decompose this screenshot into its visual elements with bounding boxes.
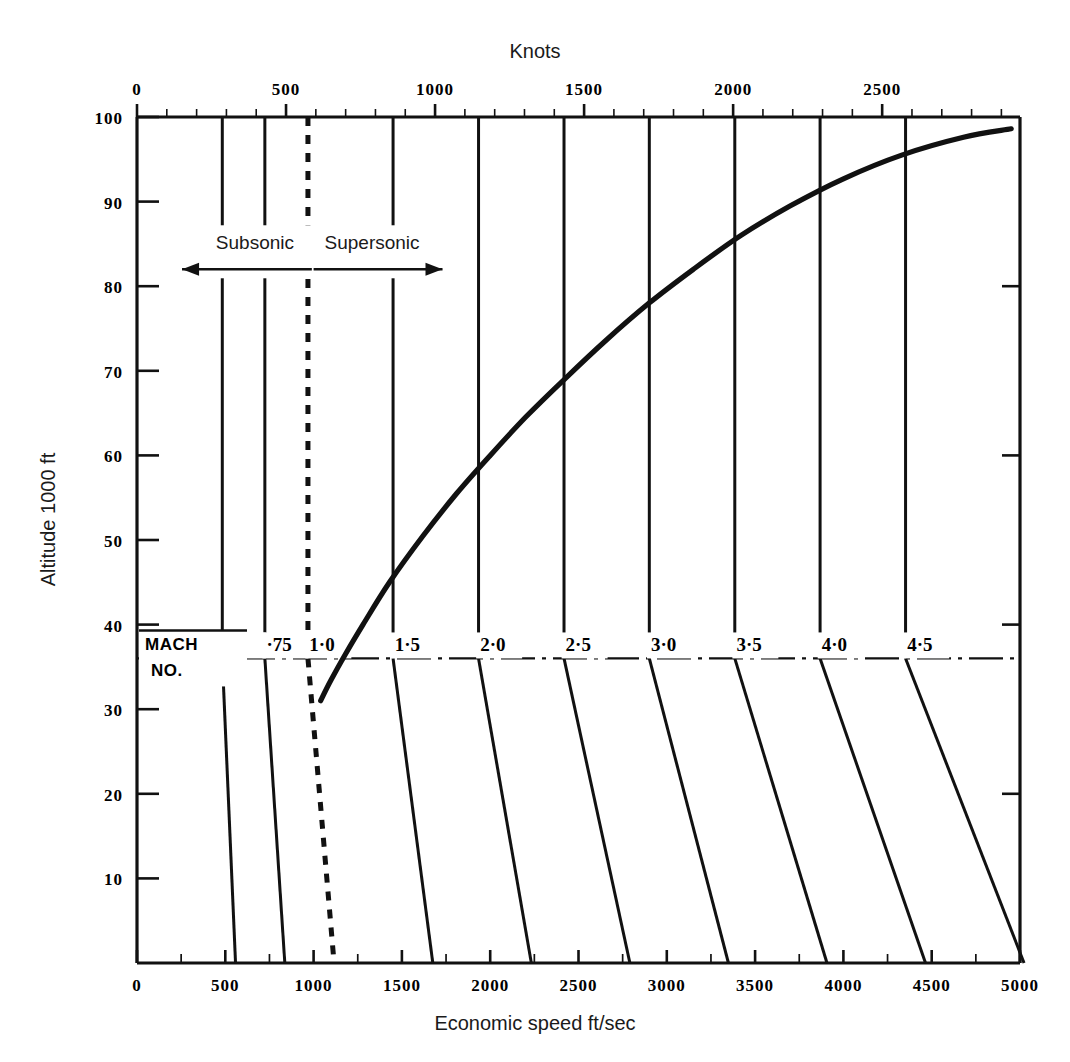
left-axis-tick-label: 60 [104, 447, 123, 466]
mach-label-2: 2·0 [480, 634, 505, 655]
mach-label-3p5: 3·5 [736, 634, 761, 655]
subsonic-region-label: Subsonic [216, 232, 294, 253]
mach-line-0p75-lower [265, 658, 285, 963]
mach-caption-line1: MACH [145, 635, 198, 654]
mach-line-2-lower [479, 658, 532, 963]
bottom-axis-tick-label: 4000 [824, 976, 862, 995]
left-axis-tick-label: 50 [104, 532, 123, 551]
mach-label-2p5: 2·5 [566, 634, 591, 655]
bottom-axis-tick-label: 2500 [560, 976, 598, 995]
mach-line-2p5-lower [564, 658, 630, 963]
mach-label-3: 3·0 [651, 634, 676, 655]
chart-figure: 0500100015002000250030003500400045005000… [0, 0, 1070, 1062]
mach-line-0p5-lower [222, 658, 235, 963]
mach-line-1-lower [308, 658, 334, 963]
mach-line-4p5-lower [906, 658, 1024, 963]
mach-label-4: 4·0 [822, 634, 847, 655]
left-axis-tick-label: 70 [104, 363, 123, 382]
left-axis-tick-label: 40 [104, 617, 123, 636]
mach-caption-line2: NO. [151, 661, 183, 680]
top-axis-tick-label: 2500 [863, 80, 901, 99]
bottom-axis-tick-label: 4500 [913, 976, 951, 995]
economic-speed-curve [321, 129, 1012, 701]
left-axis-tick-label: 90 [104, 194, 123, 213]
top-axis-tick-label: 0 [132, 80, 142, 99]
mach-label-1: 1·0 [309, 634, 334, 655]
bottom-axis-tick-label: 3500 [736, 976, 774, 995]
bottom-axis-tick-label: 0 [132, 976, 142, 995]
bottom-axis-tick-label: 1500 [383, 976, 421, 995]
bottom-axis-tick-label: 500 [211, 976, 240, 995]
bottom-axis-tick-label: 1000 [295, 976, 333, 995]
top-axis-tick-label: 1000 [416, 80, 454, 99]
bottom-axis-tick-label: 5000 [1001, 976, 1039, 995]
mach-line-4-lower [820, 658, 925, 963]
economic-speed-altitude-chart: 0500100015002000250030003500400045005000… [0, 0, 1070, 1062]
top-axis-tick-label: 2000 [714, 80, 752, 99]
mach-line-3-lower [649, 658, 728, 963]
supersonic-region-label: Supersonic [325, 232, 420, 253]
mach-line-3p5-lower [735, 658, 827, 963]
left-axis-tick-label: 10 [104, 870, 123, 889]
mach-line-1p5-lower [393, 658, 433, 963]
bottom-axis-tick-label: 3000 [648, 976, 686, 995]
mach-label-4p5: 4·5 [907, 634, 932, 655]
top-axis-tick-label: 500 [272, 80, 301, 99]
left-axis-tick-label: 100 [95, 109, 124, 128]
left-axis-tick-label: 30 [104, 701, 123, 720]
mach-label-0p75: ·75 [266, 634, 291, 655]
top-axis-tick-label: 1500 [565, 80, 603, 99]
bottom-axis-tick-label: 2000 [471, 976, 509, 995]
left-axis-tick-label: 80 [104, 278, 123, 297]
left-axis-tick-label: 20 [104, 786, 123, 805]
mach-label-1p5: 1·5 [395, 634, 420, 655]
